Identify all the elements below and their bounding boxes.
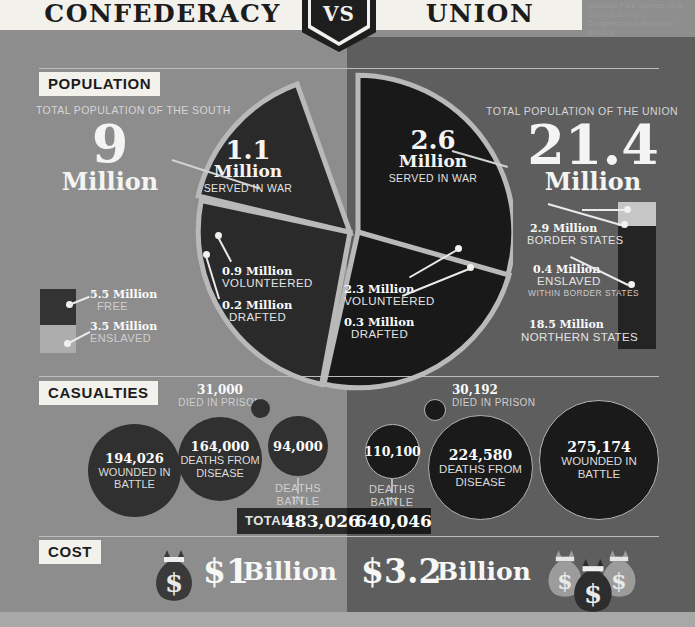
- confederacy-drafted-value: 0.2 Million: [222, 298, 292, 312]
- confederacy-wounded-bubble: 194,026 WOUNDED IN BATTLE: [88, 424, 181, 517]
- union-disease-bubble: 224,580 DEATHS FROM DISEASE: [428, 415, 533, 520]
- union-prison-value: 30,192: [452, 383, 498, 397]
- union-prison-bubble: [424, 399, 446, 421]
- vs-label: VS: [311, 2, 367, 26]
- union-volunteered-label: VOLUNTEERED: [344, 295, 435, 307]
- casualties-rule: [39, 376, 659, 377]
- total-union-value: 640,046: [355, 511, 432, 531]
- union-disease-label-2: DISEASE: [456, 476, 506, 489]
- confederacy-served-label: SERVED IN WAR: [194, 182, 302, 194]
- infographic-root: CONFEDERACY UNION VS National Park Servi…: [0, 0, 695, 627]
- south-population-value: 9: [55, 118, 165, 170]
- confederacy-served-value: 1.1: [200, 137, 296, 163]
- union-wounded-value: 275,174: [567, 439, 630, 455]
- section-label-cost: COST: [39, 540, 101, 564]
- confederacy-prison-value: 31,000: [175, 383, 265, 397]
- union-battle-value: 110,100: [364, 444, 421, 459]
- confederacy-battle-bubble: 94,000: [268, 416, 328, 476]
- union-served-unit: Million: [385, 153, 481, 170]
- title-union: UNION: [380, 0, 580, 29]
- union-battle-bubble: 110,100: [365, 424, 420, 479]
- population-rule: [39, 68, 659, 69]
- union-enslaved-sublabel: WITHIN BORDER STATES: [528, 288, 639, 298]
- svg-text:$: $: [165, 568, 183, 598]
- confederacy-prison-bubble: [251, 399, 270, 418]
- confederacy-volunteered-label: VOLUNTEERED: [222, 277, 313, 289]
- union-border-leader: [582, 209, 624, 211]
- union-wounded-bubble: 275,174 WOUNDED IN BATTLE: [539, 400, 659, 520]
- union-prison-label: DIED IN PRISON: [452, 397, 535, 408]
- pie-svg: [193, 72, 513, 392]
- union-enslaved-dot: [621, 221, 628, 228]
- union-drafted-label: DRAFTED: [351, 328, 408, 340]
- svg-text:$: $: [584, 579, 602, 609]
- source-credit: National Park Service; U.S. Census Burea…: [588, 1, 693, 37]
- union-enslaved-label: ENSLAVED: [537, 275, 601, 287]
- union-disease-label-1: DEATHS FROM: [439, 463, 522, 476]
- total-confederacy-value: 483,026: [283, 511, 360, 531]
- confederacy-battle-value: 94,000: [273, 439, 323, 454]
- confederacy-wounded-value: 194,026: [105, 451, 164, 466]
- south-population-caption: TOTAL POPULATION OF THE SOUTH: [36, 104, 231, 116]
- money-bag-icon-union-center: $: [568, 556, 618, 618]
- confederacy-served-unit: Million: [200, 163, 296, 180]
- south-free-label: FREE: [97, 300, 128, 312]
- confederacy-disease-value: 164,000: [191, 439, 250, 454]
- header-bar: CONFEDERACY UNION VS National Park Servi…: [0, 0, 695, 37]
- south-enslaved-label: ENSLAVED: [90, 332, 151, 344]
- union-population-value: 21.4: [498, 118, 688, 172]
- union-northern-label: NORTHERN STATES: [521, 331, 638, 343]
- union-wounded-label-1: WOUNDED IN: [561, 455, 636, 468]
- union-battle-label-2: BATTLE: [362, 496, 422, 508]
- confederacy-drafted-label: DRAFTED: [229, 311, 286, 323]
- union-disease-value: 224,580: [449, 447, 512, 463]
- confederacy-disease-label-1: DEATHS FROM: [180, 454, 259, 466]
- cost-union-amount: $3.2: [361, 552, 441, 591]
- confederacy-disease-bubble: 164,000 DEATHS FROM DISEASE: [178, 417, 262, 501]
- south-population-unit: Million: [40, 170, 180, 194]
- population-pie-chart: [193, 72, 513, 392]
- confederacy-wounded-label-2: BATTLE: [114, 478, 155, 490]
- cost-confederacy-unit: Billion: [243, 557, 337, 586]
- section-label-casualties: CASUALTIES: [39, 381, 158, 405]
- south-enslaved-bar: [40, 325, 76, 353]
- union-wounded-label-2: BATTLE: [578, 468, 621, 481]
- union-drafted-value: 0.3 Million: [344, 315, 414, 329]
- title-confederacy: CONFEDERACY: [40, 0, 285, 29]
- confederacy-disease-label-2: DISEASE: [196, 467, 244, 479]
- confederacy-wounded-label-1: WOUNDED IN: [98, 466, 170, 478]
- money-bag-icon-confederacy: $: [150, 548, 198, 606]
- cost-rule: [39, 536, 659, 537]
- confederacy-volunteered-value: 0.9 Million: [222, 264, 292, 278]
- union-northern-dot: [628, 281, 635, 288]
- union-northern-value: 18.5 Million: [529, 318, 604, 331]
- union-served-value: 2.6: [385, 127, 481, 153]
- union-population-unit: Million: [498, 170, 688, 194]
- union-border-dot: [624, 206, 631, 213]
- union-border-label: BORDER STATES: [527, 234, 623, 246]
- confederacy-battle-label-2: BATTLE: [268, 495, 328, 507]
- section-label-population: POPULATION: [39, 72, 160, 96]
- union-served-label: SERVED IN WAR: [379, 172, 487, 184]
- cost-union-unit: Billion: [437, 557, 531, 586]
